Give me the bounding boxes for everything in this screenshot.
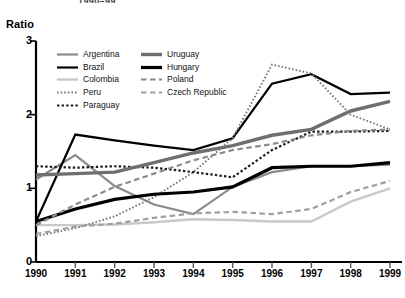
- legend-label: Czech Republic: [167, 88, 227, 97]
- legend-item-paraguay[interactable]: Paraguay: [57, 99, 119, 112]
- legend-label: Hungary: [167, 63, 199, 72]
- legend-label: Paraguay: [83, 101, 119, 110]
- x-tick-label: 1991: [64, 268, 86, 279]
- x-tick-label: 1999: [379, 268, 401, 279]
- legend-label: Peru: [83, 88, 101, 97]
- legend-swatch-icon: [57, 49, 78, 60]
- series-line-uruguay: [36, 101, 390, 175]
- legend-column: UruguayHungaryPolandCzech Republic: [141, 48, 227, 99]
- legend-swatch-icon: [141, 87, 162, 98]
- legend-swatch-icon: [141, 49, 162, 60]
- legend-item-argentina[interactable]: Argentina: [57, 48, 119, 61]
- legend-item-colombia[interactable]: Colombia: [57, 74, 119, 87]
- legend-item-brazil[interactable]: Brazil: [57, 61, 119, 74]
- legend-swatch-icon: [57, 100, 78, 111]
- legend-item-poland[interactable]: Poland: [141, 74, 227, 87]
- legend-item-hungary[interactable]: Hungary: [141, 61, 227, 74]
- legend-swatch-icon: [57, 62, 78, 73]
- legend-label: Poland: [167, 75, 193, 84]
- legend-label: Uruguay: [167, 50, 199, 59]
- legend-swatch-icon: [57, 74, 78, 85]
- legend-column: ArgentinaBrazilColombiaPeruParaguay: [57, 48, 119, 112]
- plot-canvas: [0, 0, 405, 298]
- legend-item-peru[interactable]: Peru: [57, 86, 119, 99]
- x-tick-label: 1998: [340, 268, 362, 279]
- legend-label: Brazil: [83, 63, 104, 72]
- x-tick-label: 1992: [104, 268, 126, 279]
- legend-swatch-icon: [141, 62, 162, 73]
- x-tick-label: 1997: [300, 268, 322, 279]
- legend-swatch-icon: [57, 87, 78, 98]
- x-tick-label: 1994: [182, 268, 204, 279]
- legend-label: Argentina: [83, 50, 119, 59]
- figure: 1990–99 Ratio 0123 199019911992199319941…: [0, 0, 405, 298]
- legend-swatch-icon: [141, 74, 162, 85]
- legend-item-czech-republic[interactable]: Czech Republic: [141, 86, 227, 99]
- x-tick-label: 1990: [25, 268, 47, 279]
- legend-item-uruguay[interactable]: Uruguay: [141, 48, 227, 61]
- legend: ArgentinaBrazilColombiaPeruParaguayUrugu…: [57, 48, 282, 112]
- x-tick-label: 1996: [261, 268, 283, 279]
- x-tick-label: 1995: [222, 268, 244, 279]
- x-tick-label: 1993: [143, 268, 165, 279]
- legend-label: Colombia: [83, 75, 119, 84]
